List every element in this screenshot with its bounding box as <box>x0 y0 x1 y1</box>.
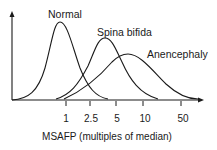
x-ticks <box>66 101 181 106</box>
tick-label-10: 10 <box>139 113 151 124</box>
msafp-chart: Normal Spina bifida Anencephaly 1 2.5 5 … <box>0 0 217 150</box>
curve-spina-bifida <box>56 38 158 99</box>
tick-label-50: 50 <box>177 113 189 124</box>
label-normal: Normal <box>48 8 82 20</box>
tick-label-2-5: 2.5 <box>84 113 98 124</box>
tick-label-1: 1 <box>63 113 69 124</box>
x-axis-arrow-icon <box>198 98 204 103</box>
x-axis-label: MSAFP (multiples of median) <box>42 131 172 142</box>
curve-normal <box>12 22 108 100</box>
label-anencephaly: Anencephaly <box>147 48 208 60</box>
label-spina-bifida: Spina bifida <box>97 26 152 38</box>
tick-label-5: 5 <box>114 113 120 124</box>
y-axis-arrow-icon <box>10 11 15 17</box>
